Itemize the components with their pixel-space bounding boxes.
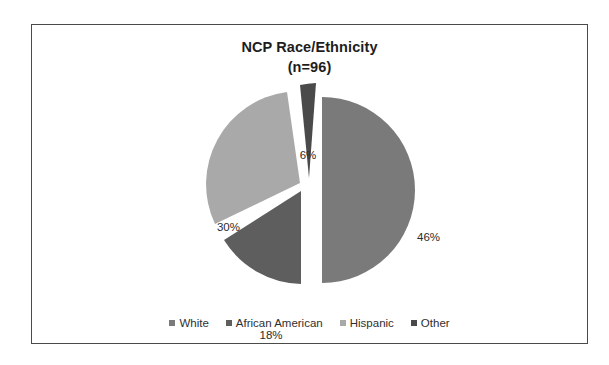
legend-label: Other bbox=[421, 317, 450, 329]
legend-swatch-icon bbox=[411, 320, 417, 326]
legend-item-white[interactable]: White bbox=[169, 317, 208, 329]
pie-label-white: 46% bbox=[417, 231, 465, 243]
legend-swatch-icon bbox=[226, 320, 232, 326]
legend-item-other[interactable]: Other bbox=[411, 317, 450, 329]
legend-swatch-icon bbox=[169, 320, 175, 326]
pie-chart-area: 6% 46% 30% 18% bbox=[32, 81, 589, 299]
pie-label-other: 6% bbox=[284, 149, 332, 161]
legend-item-hispanic[interactable]: Hispanic bbox=[340, 317, 394, 329]
legend-swatch-icon bbox=[340, 320, 346, 326]
legend-label: Hispanic bbox=[350, 317, 394, 329]
chart-subtitle: (n=96) bbox=[32, 57, 587, 77]
legend-label: White bbox=[179, 317, 208, 329]
chart-frame: NCP Race/Ethnicity (n=96) 6% 46% 30% 18%… bbox=[31, 24, 588, 344]
pie-label-african-american: 18% bbox=[247, 329, 295, 341]
pie-slice-other bbox=[300, 83, 316, 178]
chart-title-main: NCP Race/Ethnicity bbox=[241, 39, 377, 55]
legend-item-african-american[interactable]: African American bbox=[226, 317, 323, 329]
legend-label: African American bbox=[236, 317, 323, 329]
pie-chart-graphic bbox=[161, 81, 461, 299]
chart-legend: White African American Hispanic Other bbox=[32, 317, 587, 329]
pie-slice-white bbox=[322, 97, 415, 283]
chart-title: NCP Race/Ethnicity (n=96) bbox=[32, 37, 587, 77]
pie-label-hispanic: 30% bbox=[192, 221, 240, 233]
